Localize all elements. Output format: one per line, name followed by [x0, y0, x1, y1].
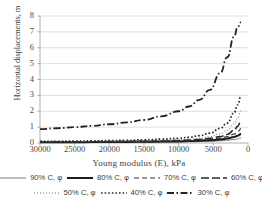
series-line: [40, 110, 241, 141]
legend-item[interactable]: 50% C, φ: [33, 188, 96, 198]
y-tick-label: 1: [12, 121, 34, 131]
y-tick-label: 8: [12, 10, 34, 20]
legend-item[interactable]: 60% C, φ: [200, 173, 262, 183]
legend-item[interactable]: 80% C, φ: [66, 173, 129, 183]
legend-swatch: [0, 173, 27, 183]
legend-label: 80% C, φ: [97, 173, 129, 182]
series-line: [40, 22, 241, 129]
y-tick-label: 2: [12, 105, 34, 115]
legend-swatch: [100, 188, 128, 198]
legend-row: 50% C, φ40% C, φ30% C, φ: [0, 185, 262, 200]
y-tick-label: 3: [12, 89, 34, 99]
legend-item[interactable]: 40% C, φ: [100, 188, 163, 198]
y-tick-label: 5: [12, 58, 34, 68]
legend-label: 90% C, φ: [30, 173, 62, 182]
legend-swatch: [133, 173, 161, 183]
legend-item[interactable]: 70% C, φ: [133, 173, 196, 183]
legend-swatch: [166, 188, 194, 198]
legend-swatch: [33, 188, 61, 198]
x-tick-label: 0: [228, 144, 262, 154]
y-tick-label: 6: [12, 42, 34, 52]
series-line: [40, 120, 241, 141]
legend-label: 30% C, φ: [197, 188, 229, 197]
legend-swatch: [200, 173, 228, 183]
legend-item[interactable]: 30% C, φ: [166, 188, 229, 198]
legend-label: 50% C, φ: [64, 188, 96, 197]
legend-swatch: [66, 173, 94, 183]
y-tick-label: 4: [12, 74, 34, 84]
legend-row: 90% C, φ80% C, φ70% C, φ60% C, φ: [0, 170, 262, 185]
chart-figure: Horizontal displacements, m Young modulu…: [0, 0, 262, 209]
legend-label: 60% C, φ: [231, 173, 262, 182]
legend-label: 70% C, φ: [164, 173, 196, 182]
series-line: [40, 96, 241, 142]
legend-label: 40% C, φ: [131, 188, 163, 197]
legend-item[interactable]: 90% C, φ: [0, 173, 62, 183]
y-tick-label: 7: [12, 26, 34, 36]
x-axis-label: Young modulus (E), kPa: [36, 158, 242, 168]
chart-legend: 90% C, φ80% C, φ70% C, φ60% C, φ 50% C, …: [0, 170, 262, 200]
